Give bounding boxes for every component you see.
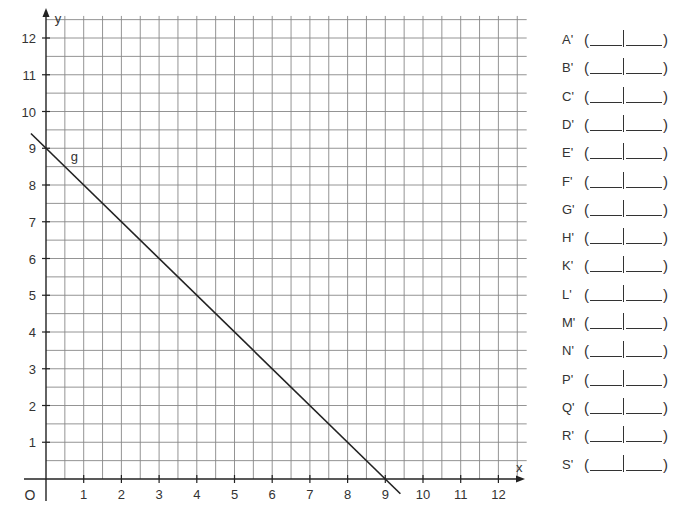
coordinate-separator bbox=[623, 256, 624, 273]
y-coordinate-blank[interactable] bbox=[626, 441, 662, 442]
x-coordinate-blank[interactable] bbox=[590, 328, 622, 329]
y-axis-arrow-icon bbox=[43, 8, 50, 17]
y-coordinate-blank[interactable] bbox=[626, 73, 662, 74]
paren-close: ) bbox=[663, 88, 668, 105]
y-tick-label: 12 bbox=[22, 31, 36, 46]
point-label: F' bbox=[562, 174, 572, 189]
coordinate-separator bbox=[623, 172, 624, 189]
y-coordinate-blank[interactable] bbox=[626, 385, 662, 386]
paren-open: ( bbox=[584, 342, 589, 359]
x-tick-label: 11 bbox=[454, 487, 468, 502]
y-coordinate-blank[interactable] bbox=[626, 271, 662, 272]
x-coordinate-blank[interactable] bbox=[590, 243, 622, 244]
x-coordinate-blank[interactable] bbox=[590, 271, 622, 272]
answer-row: D'() bbox=[562, 115, 692, 137]
answer-row: M'() bbox=[562, 313, 692, 335]
axes bbox=[24, 8, 525, 501]
coordinate-separator bbox=[623, 426, 624, 443]
y-tick-label: 5 bbox=[29, 288, 36, 303]
y-tick-label: 1 bbox=[29, 435, 36, 450]
line-label-g: g bbox=[71, 149, 78, 164]
answer-row: R'() bbox=[562, 426, 692, 448]
point-label: A' bbox=[562, 32, 573, 47]
paren-close: ) bbox=[663, 342, 668, 359]
point-label: D' bbox=[562, 117, 574, 132]
answer-row: G'() bbox=[562, 200, 692, 222]
coordinate-plot: 123456789101112123456789101112Oxy g bbox=[0, 0, 540, 525]
x-tick-label: 4 bbox=[193, 487, 200, 502]
y-coordinate-blank[interactable] bbox=[626, 413, 662, 414]
y-coordinate-blank[interactable] bbox=[626, 158, 662, 159]
x-coordinate-blank[interactable] bbox=[590, 158, 622, 159]
answer-row: L'() bbox=[562, 285, 692, 307]
paren-close: ) bbox=[663, 201, 668, 218]
y-axis-label: y bbox=[55, 11, 62, 26]
x-coordinate-blank[interactable] bbox=[590, 356, 622, 357]
y-tick-label: 10 bbox=[22, 105, 36, 120]
y-coordinate-blank[interactable] bbox=[626, 45, 662, 46]
point-label: B' bbox=[562, 60, 573, 75]
point-label: S' bbox=[562, 457, 573, 472]
coordinate-separator bbox=[623, 398, 624, 415]
paren-open: ( bbox=[584, 456, 589, 473]
paren-close: ) bbox=[663, 116, 668, 133]
point-label: H' bbox=[562, 230, 574, 245]
coordinate-separator bbox=[623, 143, 624, 160]
y-coordinate-blank[interactable] bbox=[626, 187, 662, 188]
y-coordinate-blank[interactable] bbox=[626, 243, 662, 244]
y-coordinate-blank[interactable] bbox=[626, 130, 662, 131]
paren-open: ( bbox=[584, 173, 589, 190]
answer-row: B'() bbox=[562, 58, 692, 80]
grid bbox=[46, 16, 527, 479]
x-tick-label: 7 bbox=[306, 487, 313, 502]
answer-row: Q'() bbox=[562, 398, 692, 420]
x-coordinate-blank[interactable] bbox=[590, 130, 622, 131]
y-tick-label: 11 bbox=[23, 68, 37, 83]
coordinate-separator bbox=[623, 58, 624, 75]
x-tick-label: 2 bbox=[118, 487, 125, 502]
x-tick-label: 9 bbox=[382, 487, 389, 502]
paren-close: ) bbox=[663, 173, 668, 190]
x-coordinate-blank[interactable] bbox=[590, 385, 622, 386]
x-coordinate-blank[interactable] bbox=[590, 45, 622, 46]
point-label: K' bbox=[562, 258, 573, 273]
y-coordinate-blank[interactable] bbox=[626, 328, 662, 329]
paren-close: ) bbox=[663, 399, 668, 416]
paren-open: ( bbox=[584, 257, 589, 274]
point-label: E' bbox=[562, 145, 573, 160]
x-coordinate-blank[interactable] bbox=[590, 102, 622, 103]
answer-row: N'() bbox=[562, 341, 692, 363]
y-coordinate-blank[interactable] bbox=[626, 102, 662, 103]
x-tick-label: 5 bbox=[231, 487, 238, 502]
paren-close: ) bbox=[663, 286, 668, 303]
point-label: N' bbox=[562, 343, 574, 358]
paren-open: ( bbox=[584, 229, 589, 246]
x-coordinate-blank[interactable] bbox=[590, 300, 622, 301]
paren-open: ( bbox=[584, 314, 589, 331]
x-coordinate-blank[interactable] bbox=[590, 470, 622, 471]
x-coordinate-blank[interactable] bbox=[590, 441, 622, 442]
paren-close: ) bbox=[663, 144, 668, 161]
x-coordinate-blank[interactable] bbox=[590, 215, 622, 216]
y-coordinate-blank[interactable] bbox=[626, 356, 662, 357]
coordinate-separator bbox=[623, 370, 624, 387]
paren-close: ) bbox=[663, 456, 668, 473]
paren-open: ( bbox=[584, 371, 589, 388]
x-coordinate-blank[interactable] bbox=[590, 187, 622, 188]
answer-row: E'() bbox=[562, 143, 692, 165]
paren-open: ( bbox=[584, 88, 589, 105]
paren-close: ) bbox=[663, 257, 668, 274]
x-coordinate-blank[interactable] bbox=[590, 73, 622, 74]
paren-open: ( bbox=[584, 144, 589, 161]
coordinate-separator bbox=[623, 87, 624, 104]
coordinate-separator bbox=[623, 30, 624, 47]
coordinate-separator bbox=[623, 313, 624, 330]
coordinate-separator bbox=[623, 115, 624, 132]
y-coordinate-blank[interactable] bbox=[626, 215, 662, 216]
origin-label: O bbox=[25, 487, 36, 503]
x-coordinate-blank[interactable] bbox=[590, 413, 622, 414]
paren-close: ) bbox=[663, 59, 668, 76]
y-coordinate-blank[interactable] bbox=[626, 300, 662, 301]
x-axis-label: x bbox=[516, 460, 523, 475]
y-coordinate-blank[interactable] bbox=[626, 470, 662, 471]
